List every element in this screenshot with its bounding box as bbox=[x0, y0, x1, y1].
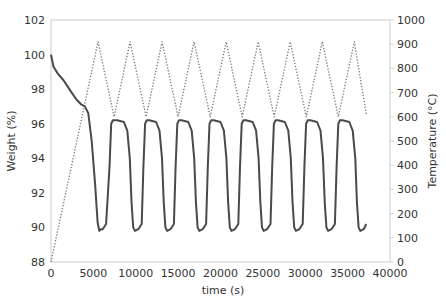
weight-temperature-chart: 889092949698100102 010020030040050060070… bbox=[0, 0, 446, 306]
x-tick-label: 40000 bbox=[373, 267, 408, 280]
plot-area bbox=[51, 20, 390, 262]
left-tick-label: 96 bbox=[31, 118, 45, 131]
left-tick-label: 88 bbox=[31, 256, 45, 269]
x-tick-label: 5000 bbox=[79, 267, 107, 280]
right-tick-label: 600 bbox=[397, 111, 418, 124]
left-tick-label: 100 bbox=[24, 49, 45, 62]
x-tick-label: 25000 bbox=[245, 267, 280, 280]
left-tick-label: 102 bbox=[24, 14, 45, 27]
right-tick-label: 500 bbox=[397, 135, 418, 148]
x-tick-label: 35000 bbox=[330, 267, 365, 280]
right-tick-label: 200 bbox=[397, 208, 418, 221]
x-axis-ticks: 0500010000150002000025000300003500040000 bbox=[48, 267, 408, 280]
left-tick-label: 90 bbox=[31, 221, 45, 234]
right-tick-label: 400 bbox=[397, 159, 418, 172]
left-axis-ticks: 889092949698100102 bbox=[24, 14, 45, 269]
right-tick-label: 900 bbox=[397, 38, 418, 51]
left-axis-label: Weight (%) bbox=[5, 111, 18, 172]
left-tick-label: 92 bbox=[31, 187, 45, 200]
x-axis-label: time (s) bbox=[202, 284, 245, 297]
right-tick-label: 800 bbox=[397, 62, 418, 75]
right-axis-label: Temperature (°C) bbox=[426, 94, 439, 190]
left-tick-label: 98 bbox=[31, 83, 45, 96]
x-tick-label: 0 bbox=[48, 267, 55, 280]
x-tick-label: 10000 bbox=[118, 267, 153, 280]
right-tick-label: 300 bbox=[397, 183, 418, 196]
right-tick-label: 1000 bbox=[397, 14, 425, 27]
right-tick-label: 100 bbox=[397, 232, 418, 245]
x-tick-label: 15000 bbox=[161, 267, 196, 280]
left-tick-label: 94 bbox=[31, 152, 45, 165]
weight-series bbox=[51, 55, 366, 231]
right-tick-label: 700 bbox=[397, 87, 418, 100]
x-tick-label: 20000 bbox=[203, 267, 238, 280]
right-axis-ticks: 01002003004005006007008009001000 bbox=[390, 14, 425, 269]
x-tick-label: 30000 bbox=[288, 267, 323, 280]
